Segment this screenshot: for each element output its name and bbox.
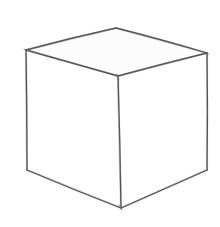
- edge-right-vertical: [207, 53, 208, 170]
- cube: [24, 28, 209, 210]
- cube-right-face: [118, 53, 207, 208]
- cube-sketch: [0, 0, 220, 227]
